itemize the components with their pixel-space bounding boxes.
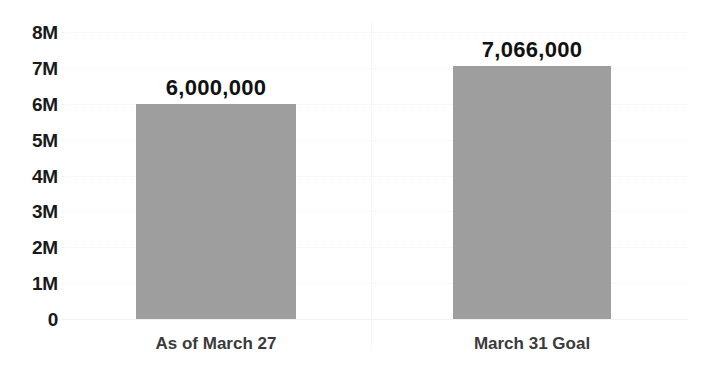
bar-category-label-as-of-march-27: As of March 27 bbox=[116, 335, 316, 352]
bar-value-label-as-of-march-27: 6,000,000 bbox=[136, 77, 296, 99]
bar-as-of-march-27 bbox=[136, 104, 296, 319]
bar-chart: 8M 7M 6M 5M 4M 3M 2M 1M 0 6,000,000 As o… bbox=[0, 0, 706, 373]
bar-march-31-goal bbox=[453, 66, 611, 319]
bars-layer: 6,000,000 As of March 27 7,066,000 March… bbox=[0, 0, 706, 373]
bar-value-label-march-31-goal: 7,066,000 bbox=[452, 39, 612, 61]
bar-category-label-march-31-goal: March 31 Goal bbox=[432, 335, 632, 352]
